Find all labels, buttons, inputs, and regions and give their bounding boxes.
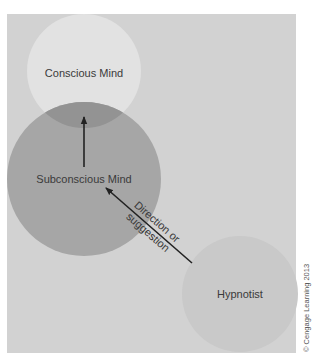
hypnosis-diagram: Conscious Mind Subconscious Mind Hypnoti… bbox=[0, 0, 316, 364]
subconscious-mind-label: Subconscious Mind bbox=[36, 173, 131, 185]
hypnotist-label: Hypnotist bbox=[217, 288, 263, 300]
copyright-credit: © Cengage Learning 2013 bbox=[302, 264, 311, 352]
conscious-mind-label: Conscious Mind bbox=[45, 67, 123, 79]
